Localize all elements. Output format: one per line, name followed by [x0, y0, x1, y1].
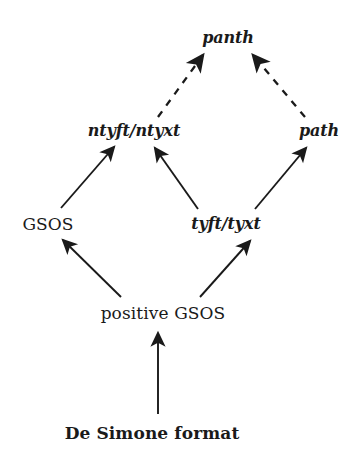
edge-posgsos-to-gsos	[63, 240, 121, 297]
edge-posgsos-to-tyft	[200, 241, 250, 297]
edge-path-to-panth	[253, 55, 305, 117]
node-tyft_tyxt: tyft/tyxt	[191, 216, 261, 232]
node-panth: panth	[202, 30, 254, 46]
edge-tyft-to-path	[255, 148, 306, 209]
node-ntyft_ntyxt: ntyft/ntyxt	[88, 123, 181, 139]
node-de_simone: De Simone format	[65, 425, 240, 442]
edge-gsos-to-ntyft	[61, 147, 114, 208]
sos-formats-hierarchy-diagram: panthntyft/ntyxtpathGSOStyft/tyxtpositiv…	[0, 0, 354, 452]
node-path: path	[299, 123, 339, 139]
edges-group	[61, 55, 306, 414]
edge-ntyft-to-panth	[158, 55, 203, 117]
node-gsos: GSOS	[22, 216, 73, 233]
edge-tyft-to-ntyft	[155, 148, 198, 209]
node-positive_gsos: positive GSOS	[101, 305, 226, 322]
